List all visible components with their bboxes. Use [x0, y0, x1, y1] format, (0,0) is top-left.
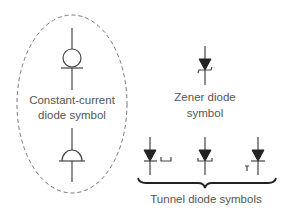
- tunnel-diode-symbol-1-icon: [144, 137, 171, 175]
- zener-label-line1: Zener diode: [174, 91, 235, 103]
- tunnel-diode-symbol-2-icon: [198, 137, 212, 175]
- constant-current-label-line2: diode symbol: [38, 109, 106, 121]
- zener-label-line2: symbol: [187, 107, 223, 119]
- constant-current-diode-symbol-dome-icon: [59, 128, 85, 182]
- diode-symbols-diagram: Constant-current diode symbol Zener diod…: [0, 0, 290, 216]
- tunnel-label: Tunnel diode symbols: [150, 193, 262, 205]
- curly-brace-icon: [138, 178, 276, 188]
- zener-diode-symbol-icon: [198, 46, 212, 85]
- tunnel-diode-symbol-3-icon: [245, 137, 265, 175]
- constant-current-label-line1: Constant-current: [29, 94, 115, 106]
- constant-current-diode-symbol-circle-icon: [61, 28, 83, 90]
